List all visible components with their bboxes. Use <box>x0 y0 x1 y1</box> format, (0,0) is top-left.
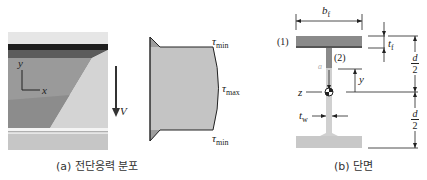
web-thickness-label: tw <box>299 110 308 124</box>
tau-min-bottom-label: τmin <box>212 133 228 147</box>
shear-force-arrow <box>112 66 120 117</box>
stress-distribution-shape <box>150 37 219 141</box>
flange-width-label: bf <box>322 5 330 19</box>
point-1-label: (1) <box>277 37 289 47</box>
centroid-icon <box>325 88 333 96</box>
shear-stress-figure <box>0 0 427 180</box>
half-depth-lower-label: d2 <box>410 108 420 131</box>
x-axis-label: x <box>42 85 47 96</box>
y-axis-label: y <box>18 58 23 69</box>
half-depth-upper-label: d2 <box>410 52 420 75</box>
distance-y-label: y <box>359 74 364 85</box>
tau-max-label: τmax <box>222 83 240 97</box>
beam-3d-view <box>8 32 108 150</box>
caption-a: (a) 전단응력 분포 <box>56 157 138 173</box>
point-a-label: a <box>318 63 322 71</box>
point-2-label: (2) <box>334 53 346 63</box>
caption-b: (b) 단면 <box>334 157 373 173</box>
shear-force-label: V <box>120 106 127 117</box>
tau-min-top-label: τmin <box>212 36 228 50</box>
flange-thickness-label: tf <box>388 38 394 52</box>
neutral-axis-label: z <box>298 87 302 98</box>
dimension-lines <box>296 14 418 148</box>
